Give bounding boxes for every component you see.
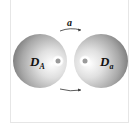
top-arrow-label: a: [67, 17, 72, 28]
left-sphere: DA: [13, 34, 67, 88]
left-dot-icon: [56, 59, 61, 64]
bottom-arrow-icon: [60, 89, 81, 92]
right-dot-icon: [83, 59, 88, 64]
diagram-canvas: DA Da a: [0, 0, 136, 128]
right-sphere: Da: [74, 34, 128, 88]
top-arrow-icon: [60, 29, 81, 32]
